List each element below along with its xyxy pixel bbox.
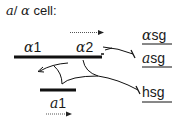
transcription-arrow-a	[46, 112, 72, 117]
gene-label-a1: a1	[50, 96, 66, 110]
target-alpha-sg: αsg	[142, 28, 166, 42]
gene-label-alpha2: α2	[76, 40, 93, 54]
title-suffix: cell:	[30, 3, 57, 18]
gene-label-alpha1: α1	[24, 40, 41, 54]
target-hsg: hsg	[142, 85, 165, 99]
alpha1-a1-interaction	[38, 63, 68, 84]
title-alpha: α	[21, 3, 30, 18]
title-slash: /	[14, 3, 18, 18]
transcription-arrow-alpha	[70, 30, 104, 35]
title-a: a	[6, 3, 14, 18]
diagram-title: a/ α cell:	[6, 4, 57, 17]
alpha2-represses-a-sg	[101, 47, 135, 58]
target-a-sg: asg	[142, 51, 165, 65]
